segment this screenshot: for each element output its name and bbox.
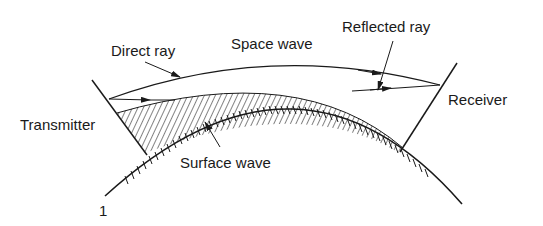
label-figure-number: 1 [99, 203, 107, 218]
ground-wave-diagram: Direct ray Space wave Reflected ray Rece… [0, 0, 543, 226]
reflected-ray-leader [378, 41, 393, 90]
label-space-wave: Space wave [231, 36, 313, 51]
label-transmitter: Transmitter [20, 117, 95, 132]
label-direct-ray: Direct ray [111, 43, 175, 58]
diagram-graphics [0, 0, 543, 226]
reflected-ray [109, 99, 150, 100]
reflected-ray-receiver-leg [352, 85, 440, 91]
label-surface-wave: Surface wave [180, 155, 271, 170]
label-reflected-ray: Reflected ray [342, 19, 430, 34]
label-receiver: Receiver [448, 92, 507, 107]
direct-ray-leader [145, 62, 180, 77]
direct-ray [109, 66, 440, 99]
